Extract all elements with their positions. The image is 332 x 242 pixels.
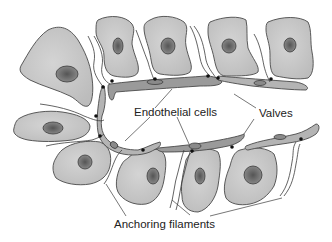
endothelial-nucleus <box>189 143 201 149</box>
nucleus <box>113 38 123 54</box>
tissue-cell <box>208 17 258 76</box>
tissue-cell <box>96 17 138 78</box>
nucleus <box>244 166 262 184</box>
tissue-cell <box>53 141 111 184</box>
endothelial-nucleus <box>274 135 286 140</box>
label-valves: Valves <box>259 107 293 119</box>
label-endothelial-cells: Endothelial cells <box>134 106 217 118</box>
tissue-cell <box>14 111 90 141</box>
tissue-cell <box>20 27 93 106</box>
nucleus <box>161 38 175 54</box>
lymphatic-capillary-diagram: Endothelial cells Valves Anchoring filam… <box>0 0 332 242</box>
nucleus <box>284 38 296 52</box>
endothelial-cell <box>157 134 244 152</box>
endothelial-nucleus <box>254 81 266 86</box>
endothelial-cell <box>97 86 160 155</box>
endothelial-cell <box>245 124 319 150</box>
nucleus <box>78 155 92 169</box>
tissue-cell <box>116 149 165 204</box>
nucleus <box>222 39 236 53</box>
nucleus <box>195 168 205 184</box>
nucleus <box>43 122 63 134</box>
tissue-cell <box>266 18 313 79</box>
label-anchoring-filaments: Anchoring filaments <box>114 218 215 230</box>
tissue-cell <box>224 148 277 205</box>
nucleus <box>147 168 159 184</box>
nucleus <box>56 66 78 82</box>
tissue-cell <box>181 149 220 212</box>
tissue-cell <box>144 16 191 75</box>
